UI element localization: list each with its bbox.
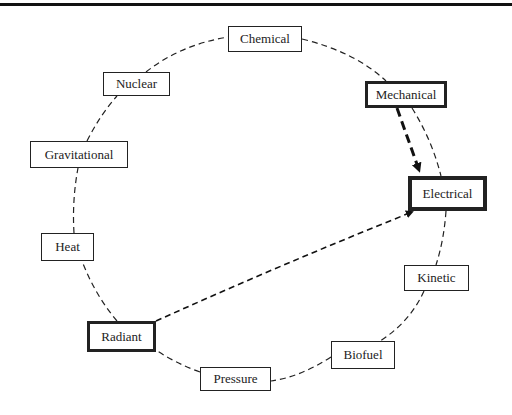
edge-nuclear-chemical (146, 37, 228, 72)
node-mechanical: Mechanical (365, 81, 447, 108)
edge-kinetic-biofuel (380, 291, 424, 341)
edge-pressure-radiant (156, 350, 200, 372)
node-label: Biofuel (344, 347, 383, 363)
node-label: Kinetic (417, 270, 455, 286)
node-electrical: Electrical (408, 176, 487, 211)
node-label: Nuclear (116, 76, 157, 92)
node-label: Pressure (213, 371, 257, 387)
node-gravitational: Gravitational (30, 141, 128, 168)
edge-radiant-heat (82, 261, 117, 321)
node-label: Gravitational (45, 147, 114, 163)
node-chemical: Chemical (228, 26, 302, 52)
edge-chemical-mechanical (302, 39, 386, 81)
arrow-mechanical-electrical (397, 108, 419, 170)
node-pressure: Pressure (200, 367, 271, 391)
node-heat: Heat (41, 233, 94, 261)
node-label: Electrical (423, 186, 473, 202)
node-kinetic: Kinetic (404, 265, 469, 291)
node-radiant: Radiant (87, 321, 156, 352)
arrow-radiant-electrical (156, 212, 412, 321)
node-biofuel: Biofuel (331, 341, 395, 369)
node-label: Radiant (101, 329, 141, 345)
edge-biofuel-pressure (271, 357, 331, 381)
edge-gravitational-nuclear (87, 96, 117, 141)
node-label: Chemical (240, 31, 290, 47)
edge-electrical-kinetic (436, 211, 446, 265)
node-label: Mechanical (376, 87, 437, 103)
edge-heat-gravitational (74, 168, 79, 233)
node-nuclear: Nuclear (103, 72, 170, 96)
node-label: Heat (55, 239, 80, 255)
